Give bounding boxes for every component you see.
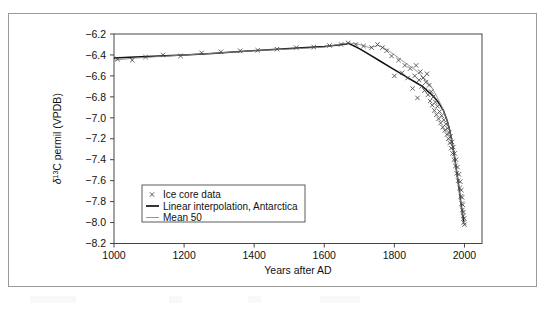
y-tick-label: −8.0 [85,216,106,228]
figure-container: 100012001400160018002000−6.2−6.4−6.6−6.8… [0,0,546,309]
y-tick-label: −7.4 [85,153,106,165]
data-point-marker [417,78,421,82]
y-tick-label: −7.0 [85,112,106,124]
x-tick-label: 2000 [453,249,477,261]
legend-label: Mean 50 [163,212,202,223]
data-point-marker [429,89,433,93]
data-point-marker [415,96,419,100]
data-point-marker [421,76,425,80]
y-tick-label: −6.8 [85,91,106,103]
data-point-marker [418,70,422,74]
legend-item[interactable]: Linear interpolation, Antarctica [146,201,298,212]
y-tick-label: −7.6 [85,174,106,186]
data-point-marker [392,74,396,78]
data-point-marker [408,66,412,70]
data-point-marker [428,99,432,103]
x-tick-label: 1600 [313,249,337,261]
scan-artifact [30,296,360,303]
x-axis-title: Years after AD [264,264,332,276]
data-point-marker [425,72,429,76]
y-tick-label: −6.4 [85,49,106,61]
y-axis-title: δ13C permil (VPDB) [51,93,63,184]
data-point-marker [433,100,437,104]
x-tick-label: 1000 [102,249,126,261]
y-tick-label: −7.8 [85,195,106,207]
data-point-marker [439,114,443,118]
y-tick-label: −7.2 [85,132,106,144]
data-point-marker [414,63,418,67]
legend-label: Ice core data [163,189,221,200]
x-tick-label: 1400 [243,249,267,261]
data-point-marker [435,104,439,108]
data-point-marker [389,54,393,58]
x-tick-label: 1200 [172,249,196,261]
y-tick-label: −6.6 [85,70,106,82]
y-tick-label: −8.2 [85,237,106,249]
chart-canvas: 100012001400160018002000−6.2−6.4−6.6−6.8… [0,0,546,309]
x-tick-label: 1800 [383,249,407,261]
data-point-marker [410,86,414,90]
data-point-marker [432,108,436,112]
data-point-marker [442,118,446,122]
legend-label: Linear interpolation, Antarctica [163,201,298,212]
data-point-marker [403,63,407,67]
data-point-marker [396,58,400,62]
data-point-marker [413,74,417,78]
data-point-marker [437,109,441,113]
y-tick-label: −6.2 [85,28,106,40]
